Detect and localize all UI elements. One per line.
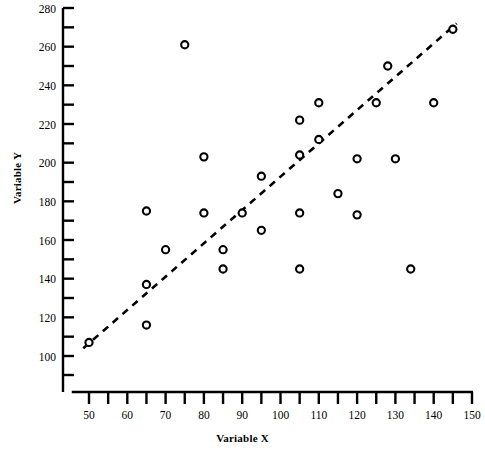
data-point <box>296 265 303 272</box>
data-point <box>430 99 437 106</box>
data-point <box>407 265 414 272</box>
x-tick-label: 80 <box>198 409 210 421</box>
y-tick-label: 240 <box>39 80 57 92</box>
data-point <box>334 190 341 197</box>
x-tick-label: 140 <box>425 409 443 421</box>
data-point <box>143 207 150 214</box>
data-point <box>85 339 92 346</box>
x-tick-label: 60 <box>122 409 134 421</box>
x-tick-label: 100 <box>272 409 290 421</box>
data-point <box>162 246 169 253</box>
y-tick-label: 220 <box>39 119 57 131</box>
x-tick-label: 70 <box>160 409 172 421</box>
y-tick-label: 180 <box>39 196 57 208</box>
data-point <box>143 281 150 288</box>
y-tick-label: 200 <box>39 157 57 169</box>
y-tick-label: 160 <box>39 235 57 247</box>
data-point <box>239 209 246 216</box>
data-point <box>315 99 322 106</box>
y-tick-label: 260 <box>39 41 57 53</box>
data-point <box>296 151 303 158</box>
y-tick-label: 140 <box>39 273 57 285</box>
x-tick-label: 150 <box>463 409 481 421</box>
y-tick-label: 120 <box>39 312 57 324</box>
x-tick-label: 110 <box>310 409 327 421</box>
y-tick-label: 280 <box>39 3 57 15</box>
data-point <box>219 246 226 253</box>
data-point <box>354 211 361 218</box>
data-point <box>143 321 150 328</box>
data-point <box>392 155 399 162</box>
x-tick-label: 120 <box>348 409 366 421</box>
plot-canvas: 100120140160180200220240260280 506070809… <box>0 0 485 455</box>
y-axis: 100120140160180200220240260280 <box>39 3 74 393</box>
data-point <box>181 41 188 48</box>
y-axis-title: Variable Y <box>11 123 23 233</box>
data-point <box>200 209 207 216</box>
y-tick-label: 100 <box>39 351 57 363</box>
x-axis: 5060708090100110120130140150 <box>72 392 481 421</box>
x-tick-label: 90 <box>236 409 248 421</box>
data-point <box>258 227 265 234</box>
data-point <box>354 155 361 162</box>
data-point <box>449 26 456 33</box>
data-point <box>373 99 380 106</box>
data-point <box>296 117 303 124</box>
data-point <box>384 62 391 69</box>
scatter-plot-figure: 100120140160180200220240260280 506070809… <box>0 0 485 455</box>
x-tick-label: 130 <box>387 409 405 421</box>
x-tick-label: 50 <box>83 409 95 421</box>
data-point <box>315 136 322 143</box>
data-point <box>296 209 303 216</box>
trendline <box>83 23 456 348</box>
data-point <box>219 265 226 272</box>
data-point <box>258 173 265 180</box>
x-axis-title: Variable X <box>0 432 485 444</box>
data-point <box>200 153 207 160</box>
